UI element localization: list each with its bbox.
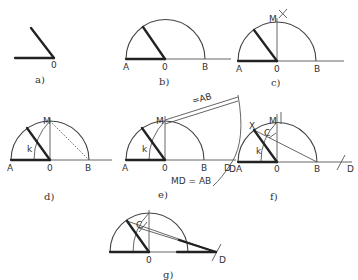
tick-D — [337, 155, 345, 170]
label-A: A — [236, 64, 243, 74]
caption-c: c) — [271, 77, 281, 88]
label-A: A — [123, 62, 130, 72]
angle-arm — [143, 27, 165, 59]
caption-f: f) — [270, 191, 278, 202]
label-B: B — [202, 62, 208, 72]
panel-e: A 0 B D M k =AB MD = AB e) — [122, 91, 241, 200]
caption-g: g) — [163, 269, 173, 280]
label-k: k — [27, 144, 33, 154]
panel-b: A 0 B b) — [123, 20, 231, 88]
label-M: M — [156, 116, 164, 126]
label-B: B — [314, 164, 320, 174]
panel-d: A 0 B M k d) — [7, 116, 112, 202]
label-B: B — [314, 64, 320, 74]
label-k: k — [142, 144, 148, 154]
caption-e: e) — [158, 189, 168, 200]
label-D: D — [219, 255, 226, 265]
label-M: M — [269, 14, 277, 24]
label-O: 0 — [162, 62, 168, 72]
label-k: k — [256, 146, 262, 156]
panel-g: 0 C D g) — [110, 210, 226, 280]
label-A: A — [7, 163, 14, 173]
label-B: B — [85, 163, 91, 173]
label-D-right: D — [347, 164, 354, 174]
caption-a: a) — [35, 74, 45, 85]
panel-a: 0 a) — [15, 28, 57, 85]
label-O: 0 — [274, 64, 280, 74]
strip-edge-lower — [165, 101, 238, 124]
label-B: B — [201, 163, 207, 173]
dotted-line-MB — [50, 121, 89, 160]
caption-b: b) — [159, 76, 169, 87]
segment-on-DX — [179, 240, 216, 252]
label-A: A — [122, 163, 129, 173]
label-O: 0 — [51, 60, 57, 70]
label-O: 0 — [274, 164, 280, 174]
panel-c: A 0 B M c) — [236, 9, 344, 88]
label-A: A — [236, 164, 243, 174]
label-C: C — [264, 128, 270, 138]
label-M: M — [269, 116, 277, 126]
label-C: C — [136, 220, 142, 230]
label-O: 0 — [162, 163, 168, 173]
diagram-canvas: 0 a) A 0 B b) A 0 B M c) A 0 — [0, 0, 358, 280]
angle-arm-slanted — [31, 28, 54, 58]
label-D-left: D — [229, 164, 236, 174]
semicircle — [126, 20, 205, 60]
label-M: M — [43, 116, 51, 126]
label-O: 0 — [47, 163, 53, 173]
caption-d: d) — [44, 191, 54, 202]
label-X: X — [249, 121, 255, 131]
label-O: 0 — [146, 255, 152, 265]
panel-f: D A 0 B D M X C k f) — [229, 112, 354, 202]
label-strip-AB: =AB — [191, 91, 213, 106]
label-MD-equals-AB: MD = AB — [171, 176, 211, 186]
angle-trisection-diagram: 0 a) A 0 B b) A 0 B M c) A 0 — [0, 0, 358, 280]
angle-arm — [254, 30, 277, 61]
